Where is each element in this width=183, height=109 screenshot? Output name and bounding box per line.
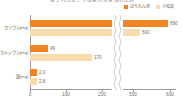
- bar-calcium-spinach: [30, 45, 48, 52]
- legend-item-spinach: ほうれん草: [124, 5, 150, 9]
- nutrition-comparison-chart: ほうれん草と小松菜の栄養価の比較 ほうれん草 小松菜 カリウム(mg) カルシウ…: [0, 0, 183, 109]
- y-category-calcium: カルシウム(mg): [0, 51, 29, 55]
- legend-label-komatsuna: 小松菜: [162, 5, 174, 9]
- bar-value-calcium-spinach: 49: [50, 46, 55, 51]
- chart-legend: ほうれん草 小松菜: [124, 5, 174, 9]
- x-tick-label-200: 200: [98, 93, 106, 98]
- bar-calcium-komatsuna: [30, 54, 92, 61]
- bar-potassium-komatsuna: [30, 29, 140, 36]
- bar-iron-spinach: [30, 69, 37, 76]
- bar-value-iron-komatsuna: 2.8: [39, 79, 45, 84]
- bar-value-potassium-spinach: 690: [170, 21, 178, 26]
- y-axis-category-labels: カリウム(mg) カルシウム(mg) 鉄(mg): [0, 15, 30, 90]
- bar-value-potassium-komatsuna: 500: [142, 30, 150, 35]
- y-category-iron: 鉄(mg): [16, 75, 29, 79]
- legend-swatch-komatsuna: [156, 5, 160, 9]
- x-tick-label-0: 0: [29, 93, 32, 98]
- legend-item-komatsuna: 小松菜: [156, 5, 174, 9]
- x-tick-label-500: 500: [129, 93, 137, 98]
- plot-area: 690 500 49 170 2.0: [30, 15, 176, 90]
- bar-value-iron-spinach: 2.0: [39, 70, 45, 75]
- x-tick-label-600: 600: [166, 93, 174, 98]
- y-category-potassium: カリウム(mg): [4, 26, 29, 30]
- chart-title: ほうれん草と小松菜の栄養価の比較: [50, 0, 135, 2]
- bar-iron-komatsuna: [30, 78, 37, 85]
- bar-potassium-spinach: [30, 20, 168, 27]
- x-tick-label-100: 100: [62, 93, 70, 98]
- legend-label-spinach: ほうれん草: [130, 5, 150, 9]
- bar-value-calcium-komatsuna: 170: [94, 55, 102, 60]
- legend-swatch-spinach: [124, 5, 128, 9]
